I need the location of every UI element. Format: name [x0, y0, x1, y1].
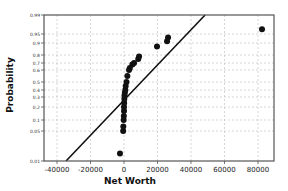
y-tick-label: 0.01	[30, 159, 40, 164]
y-tick-label: 0.2	[33, 105, 40, 110]
x-tick-label: 20000	[146, 166, 168, 174]
fit-line	[66, 15, 205, 161]
y-tick-label: 0.3	[33, 95, 40, 100]
x-axis-ticks: -40000-20000020000400006000080000	[45, 161, 270, 174]
y-tick-label: 0.5	[33, 80, 40, 85]
probability-plot: 0.010.050.10.20.30.40.50.60.70.80.90.950…	[0, 0, 288, 191]
data-point	[121, 113, 127, 119]
x-tick-label: -40000	[45, 166, 70, 174]
y-tick-label: 0.05	[30, 129, 40, 134]
data-point	[154, 44, 160, 50]
data-point	[165, 35, 171, 41]
data-point	[120, 124, 126, 130]
y-axis-label: Probability	[5, 55, 15, 115]
y-tick-label: 0.9	[33, 41, 40, 46]
x-tick-label: 40000	[180, 166, 202, 174]
y-tick-label: 0.4	[33, 88, 40, 93]
data-point	[117, 151, 123, 157]
grid-lines	[44, 15, 274, 161]
x-axis-label: Net Worth	[104, 176, 204, 186]
y-tick-label: 0.7	[33, 61, 40, 66]
plot-frame	[44, 15, 274, 161]
y-tick-label: 0.8	[33, 53, 40, 58]
x-tick-label: 0	[122, 166, 126, 174]
data-point	[136, 54, 142, 60]
x-tick-label: 80000	[247, 166, 269, 174]
y-tick-label: 0.95	[30, 32, 40, 37]
y-tick-label: 0.99	[30, 13, 40, 18]
data-point	[259, 26, 265, 32]
y-axis-ticks: 0.010.050.10.20.30.40.50.60.70.80.90.950…	[30, 13, 44, 164]
data-point	[124, 73, 130, 79]
y-tick-label: 0.1	[33, 118, 40, 123]
y-tick-label: 0.6	[33, 68, 40, 73]
x-tick-label: 60000	[213, 166, 235, 174]
x-tick-label: -20000	[78, 166, 103, 174]
data-point	[124, 79, 130, 85]
